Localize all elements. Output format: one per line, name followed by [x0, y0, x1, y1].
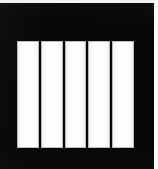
scan-margin-right [154, 0, 158, 169]
vertical-bar-1 [17, 41, 39, 148]
bar-shading [112, 148, 134, 169]
vertical-bar-2 [41, 41, 63, 148]
bar-shading [17, 148, 39, 169]
vertical-bar-5 [112, 41, 134, 148]
vertical-bar-4 [88, 41, 110, 148]
black-field [0, 3, 154, 169]
bar-shading [88, 148, 110, 169]
bar-shading [41, 148, 63, 169]
figure-canvas: Black rectangular field containing five … [0, 0, 158, 169]
bar-shading [65, 148, 87, 169]
vertical-bar-group [17, 41, 134, 148]
vertical-bar-3 [65, 41, 87, 148]
